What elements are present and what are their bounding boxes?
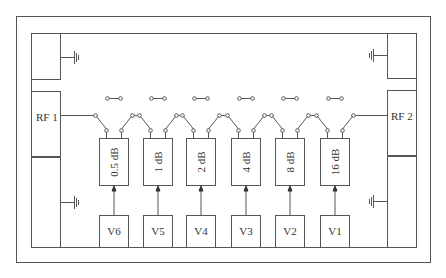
attenuation-label: 4 dB: [240, 151, 252, 172]
attenuation-label: 1 dB: [152, 151, 164, 172]
arrow-icon: [288, 186, 292, 191]
right-top-pad: [388, 34, 417, 79]
arrow-icon: [112, 186, 116, 191]
control-label: V3: [239, 225, 253, 237]
left-bottom-pad: [32, 158, 61, 248]
ground-icon: [61, 196, 79, 209]
control-label: V2: [283, 225, 296, 237]
attenuation-label: 16 dB: [329, 149, 341, 176]
arrow-icon: [199, 186, 203, 191]
rf1-label: RF 1: [36, 111, 58, 123]
rf2-label: RF 2: [391, 110, 413, 122]
attenuator-diagram: 0.5 dBV61 dBV52 dBV44 dBV38 dBV216 dBV1 …: [0, 0, 446, 278]
control-label: V5: [151, 225, 165, 237]
attenuation-label: 2 dB: [195, 151, 207, 172]
control-label: V1: [328, 225, 341, 237]
arrow-icon: [244, 186, 248, 191]
ground-icon: [370, 195, 388, 208]
inner-frame: [32, 34, 417, 248]
arrow-icon: [156, 186, 160, 191]
control-label: V4: [194, 225, 208, 237]
attenuation-label: 8 dB: [284, 151, 296, 172]
arrow-icon: [333, 186, 337, 191]
control-label: V6: [107, 225, 121, 237]
attenuation-label: 0.5 dB: [108, 147, 120, 176]
right-bottom-pad: [388, 157, 417, 248]
ground-icon: [61, 51, 79, 64]
ground-icon: [370, 49, 388, 62]
rf1-pad: [32, 92, 61, 157]
left-top-pad: [32, 34, 61, 80]
outer-border: [17, 17, 431, 263]
rf2-pad: [388, 91, 417, 156]
